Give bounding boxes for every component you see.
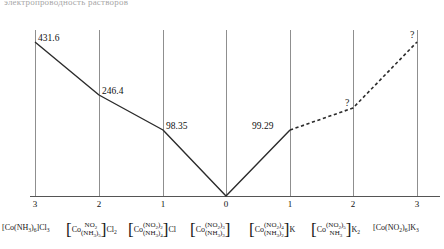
data-label-unknown-1: ? (345, 97, 349, 108)
gridlines (36, 30, 418, 196)
x-tick-0: 3 (28, 199, 42, 209)
x-tick-6: 3 (410, 199, 424, 209)
data-label-98: 98.35 (166, 121, 187, 131)
x-tick-1: 2 (92, 199, 106, 209)
x-tick-2: 1 (156, 199, 170, 209)
data-label-99: 99.29 (252, 121, 273, 131)
formula-item-4: [Co(NO2)4(NH3)2]K (249, 221, 295, 238)
data-label-431: 431.6 (38, 33, 59, 43)
series-measured-line (35, 42, 290, 196)
formula-item-1: [CoNO2(NH3)5]Cl2 (66, 221, 117, 238)
x-tick-5: 2 (346, 199, 360, 209)
data-label-246: 246.4 (102, 86, 123, 96)
formula-item-3: [Co(NO2)3(NH3)3] (190, 221, 230, 238)
formula-item-5: [Co(NO2)5NH3]K2 (311, 221, 360, 238)
formula-row: [Co(NH3)6]Cl3 [CoNO2(NH3)5]Cl2 [Co(NO2)2… (0, 214, 444, 249)
formula-item-2: [Co(NO2)2(NH3)4]Cl (128, 221, 176, 238)
x-tick-4: 1 (283, 199, 297, 209)
formula-item-6: [Co(NO2)6]K3 (373, 224, 419, 234)
x-tick-3: 0 (219, 199, 233, 209)
formula-item-0: [Co(NH3)6]Cl3 (2, 224, 50, 234)
plot-area (0, 0, 444, 249)
data-label-unknown-2: ? (410, 29, 414, 40)
chart-figure: электропроводность растворов 431.6 246.4… (0, 0, 444, 249)
